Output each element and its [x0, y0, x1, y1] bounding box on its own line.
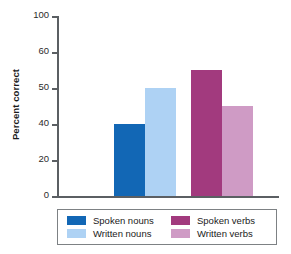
y-tick-label-2: 50 [38, 81, 49, 92]
y-axis-title-text: Percent correct [11, 68, 22, 139]
x-axis-line [57, 196, 279, 198]
legend-label-spoken-nouns: Spoken nouns [93, 215, 154, 226]
legend-swatch-spoken-verbs [171, 216, 190, 225]
y-tick-mark-1 [52, 52, 57, 54]
legend-swatch-written-verbs [171, 229, 190, 238]
legend-label-written-verbs: Written verbs [197, 228, 253, 239]
y-tick-label-1: 60 [38, 45, 49, 56]
y-tick-mark-5 [52, 196, 57, 198]
y-tick-label-0: 100 [33, 9, 49, 20]
legend-swatch-spoken-nouns [67, 216, 86, 225]
y-tick-label-4: 20 [38, 153, 49, 164]
bar-chart-figure: Percent correct 100 60 50 40 20 0 [0, 0, 291, 254]
y-axis-line [57, 16, 59, 196]
bar-written-verbs [222, 106, 253, 196]
bar-spoken-verbs [191, 70, 222, 196]
y-axis-title: Percent correct [6, 44, 26, 164]
y-tick-mark-3 [52, 124, 57, 126]
y-tick-label-3: 40 [38, 117, 49, 128]
legend-label-written-nouns: Written nouns [93, 228, 151, 239]
y-tick-mark-4 [52, 160, 57, 162]
legend-item-spoken-verbs: Spoken verbs [171, 215, 269, 226]
legend-item-spoken-nouns: Spoken nouns [67, 215, 165, 226]
y-tick-label-5: 0 [44, 189, 49, 200]
bar-written-nouns [145, 88, 176, 196]
legend-label-spoken-verbs: Spoken verbs [197, 215, 255, 226]
plot-area: 100 60 50 40 20 0 [57, 16, 279, 196]
legend: Spoken nouns Spoken verbs Written nouns … [57, 209, 277, 245]
bar-spoken-nouns [114, 124, 145, 196]
legend-item-written-nouns: Written nouns [67, 228, 165, 239]
y-tick-mark-0 [52, 16, 57, 18]
y-tick-mark-2 [52, 88, 57, 90]
legend-item-written-verbs: Written verbs [171, 228, 269, 239]
legend-swatch-written-nouns [67, 229, 86, 238]
